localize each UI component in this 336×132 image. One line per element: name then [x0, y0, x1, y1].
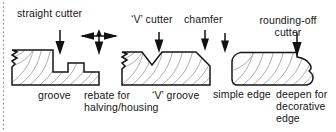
label-rounding-off-cutter-line1: rounding-off [250, 14, 326, 27]
label-rebate-line2: halving/housing [84, 101, 159, 114]
label-deepen-line2: decorative [276, 100, 326, 113]
groove-down-arrow [55, 30, 64, 55]
figure-canvas: straight cutter ‘V’ cutter chamfer round… [0, 0, 336, 132]
workpiece-groove-rebate [10, 48, 104, 87]
wood-grain-c [230, 50, 318, 87]
label-rounding-off-cutter-line2: cutter [250, 26, 326, 39]
v-cutter-down-arrow [155, 32, 164, 53]
wood-grain-a [10, 48, 104, 87]
wood-grain-b [120, 50, 217, 87]
label-simple-edge: simple edge [213, 88, 271, 101]
label-deepen-line1: deepen for [276, 88, 327, 101]
workpiece-v-groove-chamfer [120, 50, 217, 87]
label-v-cutter: ‘V’ cutter [131, 13, 173, 26]
label-deepen-line3: edge [276, 112, 300, 125]
label-chamfer: chamfer [184, 13, 223, 26]
label-v-groove: ‘V’ groove [152, 89, 199, 102]
label-rebate-line1: rebate for [84, 89, 130, 102]
chamfer-down-arrow-right [221, 33, 229, 53]
rebate-four-way-arrow [80, 29, 118, 55]
chamfer-down-arrow-left [201, 30, 209, 51]
workpiece-rounded-edge [230, 50, 318, 87]
workpiece-c-outline [232, 53, 313, 85]
label-groove: groove [38, 89, 71, 102]
label-straight-cutter: straight cutter [17, 7, 82, 20]
